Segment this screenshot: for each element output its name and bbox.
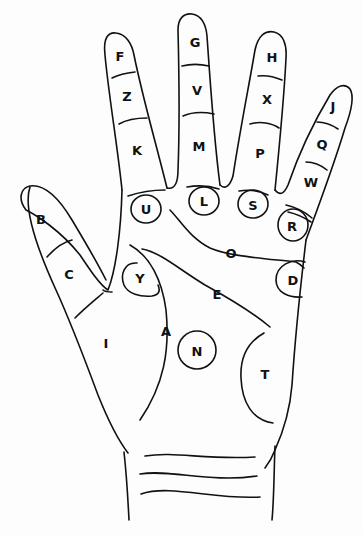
label-ring-mid: X [262, 92, 272, 107]
palm-lines [130, 210, 304, 420]
labels: F Z K G V M H X P J Q W B C I U L S R Y … [36, 35, 335, 382]
label-little-mid: Q [316, 137, 327, 152]
label-mount-index: U [141, 202, 152, 217]
label-mount-luna: T [261, 367, 270, 382]
label-middle-tip: G [190, 35, 201, 50]
label-ring-base: P [255, 146, 265, 161]
label-little-tip: J [330, 99, 336, 114]
label-thumb-base: I [104, 336, 109, 351]
label-index-tip: F [116, 49, 125, 64]
wrist-bracelets [140, 454, 260, 497]
label-life-line: A [161, 324, 171, 339]
label-index-base: K [132, 143, 143, 158]
label-heart-line: O [225, 246, 236, 261]
label-middle-base: M [193, 139, 206, 154]
label-mount-lower-mars: Y [134, 271, 145, 286]
label-mount-ring: S [248, 198, 257, 213]
label-plain-of-mars: N [192, 344, 203, 359]
label-index-mid: Z [122, 89, 131, 104]
label-head-line: E [213, 287, 222, 302]
label-mount-middle: L [200, 194, 208, 209]
label-mount-little: R [287, 219, 297, 234]
heart-line [170, 210, 304, 268]
label-middle-mid: V [192, 83, 202, 98]
label-thumb-tip: B [36, 212, 46, 227]
label-mount-upper-mars: D [288, 273, 299, 288]
label-thumb-mid: C [64, 267, 74, 282]
label-ring-tip: H [267, 50, 278, 65]
mounts [123, 187, 308, 423]
hand-diagram: F Z K G V M H X P J Q W B C I U L S R Y … [0, 0, 363, 535]
label-little-base: W [304, 175, 318, 190]
